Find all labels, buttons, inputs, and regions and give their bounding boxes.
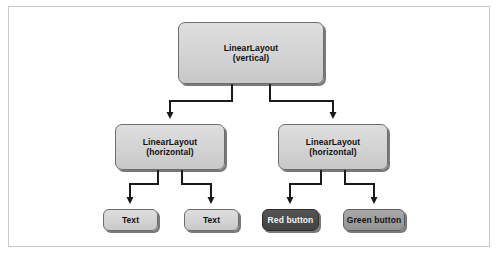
- node-root-line2: (vertical): [233, 53, 269, 63]
- node-right-container-line2: (horizontal): [309, 147, 356, 157]
- node-red-button[interactable]: Red button: [262, 209, 319, 231]
- diagram-figure: LinearLayout (vertical) LinearLayout (ho…: [0, 0, 499, 258]
- node-root-line1: LinearLayout: [224, 43, 279, 53]
- node-right-container-line1: LinearLayout: [306, 137, 361, 147]
- node-text-1-label: Text: [122, 215, 139, 225]
- edge-left-container-to-text2: [182, 170, 211, 198]
- node-green-button[interactable]: Green button: [343, 209, 405, 231]
- edge-right-container-to-green-button: [345, 170, 374, 198]
- node-text-2-label: Text: [203, 215, 220, 225]
- edge-root-to-right-container: [270, 84, 333, 113]
- node-red-button-label: Red button: [268, 215, 314, 225]
- node-left-container-line2: (horizontal): [146, 147, 193, 157]
- node-right-linearlayout-horizontal[interactable]: LinearLayout (horizontal): [278, 124, 388, 170]
- node-left-linearlayout-horizontal[interactable]: LinearLayout (horizontal): [115, 124, 225, 170]
- node-root-linearlayout-vertical[interactable]: LinearLayout (vertical): [178, 22, 324, 84]
- edge-right-container-to-red-button: [290, 170, 321, 198]
- node-text-2[interactable]: Text: [184, 209, 239, 231]
- edge-left-container-to-text1: [130, 170, 158, 198]
- node-left-container-line1: LinearLayout: [143, 137, 198, 147]
- node-green-button-label: Green button: [347, 215, 402, 225]
- edge-root-to-left-container: [170, 84, 232, 113]
- node-text-1[interactable]: Text: [103, 209, 158, 231]
